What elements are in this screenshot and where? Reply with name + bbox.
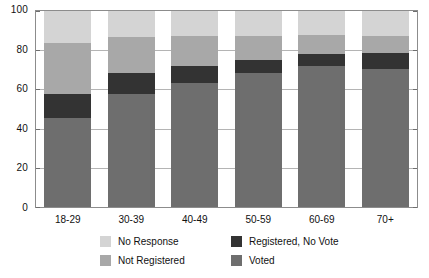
y-tick-label: 40 [16, 124, 28, 134]
x-tick-label: 18-29 [36, 214, 100, 226]
bar-70+[interactable] [362, 11, 409, 207]
bar-40-49[interactable] [171, 11, 218, 207]
bar-segment[interactable] [44, 43, 91, 94]
y-tick-label: 60 [16, 84, 28, 94]
bar-segment[interactable] [298, 35, 345, 55]
bar-segment[interactable] [362, 53, 409, 69]
bar-segment[interactable] [108, 94, 155, 207]
bar-segment[interactable] [171, 11, 218, 36]
bars-layer [36, 11, 417, 207]
legend-item[interactable]: Registered, No Vote [231, 236, 339, 247]
bar-segment[interactable] [298, 11, 345, 35]
x-tick-label: 50-59 [227, 214, 291, 226]
bar-segment[interactable] [235, 73, 282, 207]
bar-segment[interactable] [235, 60, 282, 73]
bar-50-59[interactable] [235, 11, 282, 207]
bar-segment[interactable] [362, 69, 409, 207]
legend-swatch-icon [231, 255, 242, 266]
bar-segment[interactable] [108, 37, 155, 72]
bar-segment[interactable] [362, 36, 409, 53]
bar-segment[interactable] [108, 73, 155, 95]
legend-label: Registered, No Vote [249, 236, 339, 247]
bar-segment[interactable] [44, 11, 91, 43]
bar-segment[interactable] [235, 36, 282, 60]
legend-swatch-icon [231, 236, 242, 247]
legend-item[interactable]: Voted [231, 255, 275, 266]
y-tick-label: 80 [16, 45, 28, 55]
bar-segment[interactable] [298, 54, 345, 66]
legend-label: No Response [118, 236, 179, 247]
x-tick-label: 70+ [354, 214, 418, 226]
bar-segment[interactable] [235, 11, 282, 36]
legend-label: Not Registered [118, 255, 185, 266]
x-tick-label: 30-39 [100, 214, 164, 226]
y-tick-label: 100 [11, 5, 28, 15]
bar-60-69[interactable] [298, 11, 345, 207]
legend-label: Voted [249, 255, 275, 266]
bar-18-29[interactable] [44, 11, 91, 207]
y-axis: 100 80 60 40 20 0 [0, 0, 32, 212]
legend-item[interactable]: Not Registered [100, 255, 185, 266]
legend-swatch-icon [100, 255, 111, 266]
bar-segment[interactable] [171, 36, 218, 65]
bar-30-39[interactable] [108, 11, 155, 207]
bar-segment[interactable] [108, 11, 155, 37]
x-tick-label: 40-49 [163, 214, 227, 226]
bar-segment[interactable] [362, 11, 409, 36]
bar-segment[interactable] [171, 83, 218, 207]
stacked-bar-chart: 100 80 60 40 20 0 18-2930-3940-4950-5960… [0, 0, 429, 278]
legend-item[interactable]: No Response [100, 236, 179, 247]
y-tick-label: 0 [22, 203, 28, 213]
legend-swatch-icon [100, 236, 111, 247]
x-tick-label: 60-69 [290, 214, 354, 226]
bar-segment[interactable] [298, 66, 345, 207]
bar-segment[interactable] [44, 94, 91, 118]
legend: No ResponseRegistered, No VoteNot Regist… [100, 236, 400, 274]
plot-wrapper: 100 80 60 40 20 0 18-2930-3940-4950-5960… [0, 0, 429, 212]
y-tick-label: 20 [16, 163, 28, 173]
axis-tick [36, 207, 40, 208]
bar-segment[interactable] [171, 66, 218, 83]
x-axis: 18-2930-3940-4950-5960-6970+ [35, 212, 418, 232]
plot-area [35, 10, 418, 208]
bar-segment[interactable] [44, 118, 91, 207]
axis-tick [413, 207, 417, 208]
